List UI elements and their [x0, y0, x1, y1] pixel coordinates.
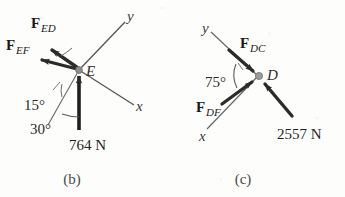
- panel-b-force-label-fed: F ED: [31, 15, 56, 34]
- panel-c-axis-label-y: y: [200, 20, 209, 36]
- panel-b-axis-label-x: x: [135, 98, 143, 114]
- panel-b-angle-label-15: 15°: [24, 97, 45, 113]
- panel-b-leader-fed: [61, 48, 72, 56]
- panel-b-axis-label-y: y: [125, 8, 134, 24]
- panel-b-force-symbol-fed: F: [31, 15, 40, 31]
- panel-c-force-label-fdf: F DF: [196, 99, 221, 118]
- panel-c-force-symbol-fdf: F: [196, 99, 205, 115]
- statics-free-body-diagram: y x 15° 30° E F ED F EF 764 N (b): [0, 0, 345, 197]
- panel-c-force-symbol-fdc: F: [240, 35, 249, 51]
- panel-b-force-label-764n: 764 N: [69, 137, 106, 153]
- panel-b-force-symbol-fef: F: [6, 37, 15, 53]
- panel-b-force-label-fef: F EF: [6, 37, 30, 56]
- panel-b-force-subscript-fed: ED: [40, 22, 56, 34]
- panel-b-angle-arc-30: [62, 114, 79, 117]
- panel-c-joint-node: [255, 72, 262, 79]
- panel-b-joint-node: [76, 67, 83, 74]
- panel-c-caption: (c): [235, 171, 252, 188]
- panel-c-angle-arc-75: [234, 64, 237, 88]
- panel-c-force-vector-fdf: [222, 82, 252, 104]
- panel-c-axis-label-x: x: [198, 128, 206, 144]
- panel-b-caption: (b): [63, 171, 81, 188]
- panel-c-joint-label-d: D: [266, 67, 278, 83]
- panel-c-force-subscript-fdf: DF: [205, 106, 221, 118]
- panel-c: y x 75° D F DC F DF 2557 N (c): [196, 20, 322, 188]
- panel-b-angle-leader-15: [53, 82, 60, 90]
- panel-b-angle-label-30: 30°: [30, 121, 51, 137]
- panel-c-angle-label-75: 75°: [205, 74, 226, 90]
- panel-b-angle-arc-15: [61, 84, 62, 97]
- panel-b: y x 15° 30° E F ED F EF 764 N (b): [6, 8, 143, 188]
- panel-c-angle-leader-75: [238, 63, 243, 70]
- panel-c-force-subscript-fdc: DC: [249, 42, 266, 54]
- panel-c-force-label-fdc: F DC: [240, 35, 266, 54]
- panel-b-joint-label-e: E: [85, 63, 95, 79]
- panel-c-force-vector-2557n: [265, 84, 292, 116]
- panel-b-force-subscript-fef: EF: [15, 44, 30, 56]
- panel-c-force-label-2557n: 2557 N: [277, 126, 322, 142]
